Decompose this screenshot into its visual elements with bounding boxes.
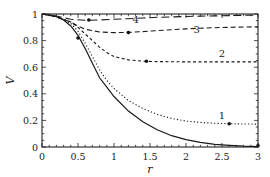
chart-figure: 00.511.522.5300.20.40.60.81rV1234 [0, 0, 270, 177]
y-tick-label: 0.2 [23, 115, 38, 126]
curve-marker [127, 31, 131, 35]
x-tick-label: 1 [111, 151, 117, 162]
y-axis-label: V [4, 75, 17, 84]
x-axis-label: r [147, 163, 153, 176]
curve-label-3: 3 [194, 24, 200, 35]
y-tick-label: 0 [32, 142, 38, 153]
curve-label-4: 4 [132, 14, 138, 25]
y-tick-label: 0.6 [23, 62, 38, 73]
plot-frame [42, 14, 258, 147]
line-chart: 00.511.522.5300.20.40.60.81rV1234 [0, 0, 270, 177]
x-tick-label: 3 [255, 151, 261, 162]
curve-label-1: 1 [219, 110, 225, 121]
x-tick-label: 0.5 [70, 151, 85, 162]
x-tick-label: 2 [183, 151, 189, 162]
curve-marker [87, 18, 91, 22]
curve-solid [42, 14, 258, 147]
x-tick-label: 0 [39, 151, 45, 162]
curve-marker [76, 36, 80, 40]
y-tick-label: 1 [32, 9, 38, 20]
y-tick-label: 0.4 [23, 88, 38, 99]
curve-marker [227, 122, 231, 126]
x-tick-label: 1.5 [142, 151, 157, 162]
curve-2 [42, 14, 258, 62]
series-layer [42, 14, 260, 147]
curve-marker [145, 59, 149, 63]
curve-label-2: 2 [219, 48, 225, 59]
axes [42, 14, 258, 147]
y-tick-label: 0.8 [23, 35, 38, 46]
x-tick-label: 2.5 [214, 151, 229, 162]
